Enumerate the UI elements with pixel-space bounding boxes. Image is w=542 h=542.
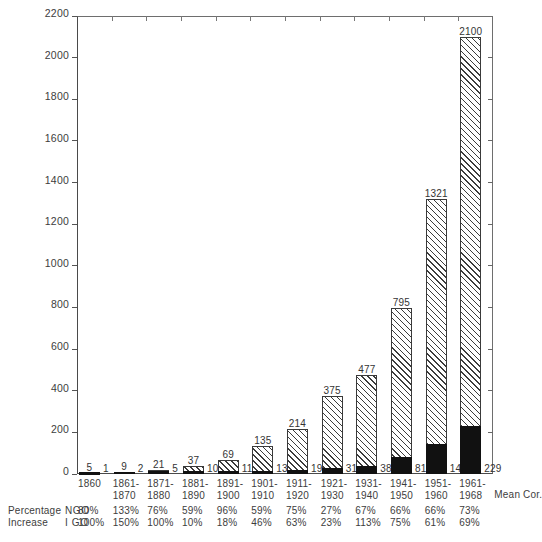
x-axis-label-line-1: 1931- xyxy=(355,478,382,490)
footer-ngo-percent-cell: 80% xyxy=(78,505,99,517)
footer-igo-percent-cell: 63% xyxy=(286,517,307,529)
y-tick-mark-right xyxy=(488,265,493,266)
x-axis-label-line-2: 1950 xyxy=(390,490,417,502)
footer-igo-percent-cell: 10% xyxy=(182,517,203,529)
y-tick-mark-right xyxy=(488,307,493,308)
y-tick-mark-right xyxy=(488,57,493,58)
x-axis-label: 1961-1968 xyxy=(459,478,486,501)
bar-igo xyxy=(426,444,447,474)
footer-ngo-percent-cell: 96% xyxy=(217,505,238,517)
x-axis-label-line-2: 1930 xyxy=(321,490,348,502)
y-tick-mark-right xyxy=(488,432,493,433)
bar-ngo: 37 xyxy=(183,466,204,474)
y-tick-label: 1800 xyxy=(45,91,69,102)
footer-row2-label: Increase xyxy=(8,517,48,529)
bar-ngo: 135 xyxy=(252,446,273,474)
bar-igo xyxy=(252,471,273,474)
y-tick-label: 2200 xyxy=(45,8,69,19)
x-axis-label: 1871-1880 xyxy=(147,478,174,501)
x-axis-label-line-1: 1901- xyxy=(251,478,278,490)
y-tick-label: 1200 xyxy=(45,216,69,227)
y-tick-mark xyxy=(72,140,77,141)
bar-value-label-ngo: 135 xyxy=(254,435,271,446)
x-axis-label: 1881-1890 xyxy=(182,478,209,501)
x-axis-label: 1931-1940 xyxy=(355,478,382,501)
bar-igo xyxy=(356,466,377,474)
mean-cor-annotation: Mean Cor. xyxy=(494,489,542,501)
y-tick-mark xyxy=(72,307,77,308)
top-axis-tick xyxy=(146,16,147,21)
bar-ngo: 5 xyxy=(79,473,100,475)
bar-value-label-igo: 229 xyxy=(484,463,501,474)
y-tick-label: 1600 xyxy=(45,133,69,144)
footer-igo-percent-cell: 18% xyxy=(217,517,238,529)
x-axis-label-line-1: 1881- xyxy=(182,478,209,490)
bar-ngo: 375 xyxy=(322,396,343,474)
y-tick-mark xyxy=(72,390,77,391)
bar-igo xyxy=(391,457,412,474)
x-axis-label: 1901-1910 xyxy=(251,478,278,501)
bar-ngo: 1321 xyxy=(426,199,447,474)
x-axis-label: 1861-1870 xyxy=(113,478,140,501)
bar-value-label-igo: 1 xyxy=(103,463,109,474)
bar-igo xyxy=(460,426,481,474)
bar-value-label-ngo: 37 xyxy=(188,455,200,466)
bar-ngo: 69 xyxy=(218,460,239,474)
footer-igo-percent-cell: 23% xyxy=(321,517,342,529)
y-tick-mark-right xyxy=(488,99,493,100)
bar-value-label-ngo: 375 xyxy=(324,385,341,396)
bar-value-label-ngo: 5 xyxy=(87,462,93,473)
y-tick-mark-right xyxy=(488,140,493,141)
x-axis-label-line-2: 1940 xyxy=(355,490,382,502)
x-axis-label-line-2: 1968 xyxy=(459,490,486,502)
top-axis-tick xyxy=(112,16,113,21)
top-axis-tick xyxy=(389,16,390,21)
bar-value-label-ngo: 477 xyxy=(358,364,375,375)
x-axis-label-line-2: 1920 xyxy=(286,490,312,502)
x-axis-label: 1951-1960 xyxy=(425,478,452,501)
bar-igo xyxy=(322,468,343,474)
x-axis-label: 1891-1900 xyxy=(217,478,244,501)
footer-igo-percent-cell: 69% xyxy=(459,517,480,529)
footer-ngo-percent-cell: 76% xyxy=(147,505,168,517)
y-tick-mark xyxy=(72,224,77,225)
y-tick-mark xyxy=(72,349,77,350)
footer-igo-percent-cell: 61% xyxy=(425,517,446,529)
footer-igo-percent-cell: 150% xyxy=(113,517,139,529)
footer-ngo-percent-cell: 66% xyxy=(390,505,411,517)
x-axis-label-line-1: 1921- xyxy=(321,478,348,490)
bar-igo xyxy=(148,471,169,474)
x-axis-label-line-2: 1900 xyxy=(217,490,244,502)
bar-igo xyxy=(218,471,239,474)
x-axis-label-line-1: 1891- xyxy=(217,478,244,490)
footer-ngo-percent-cell: 75% xyxy=(286,505,307,517)
y-tick-label: 600 xyxy=(51,341,69,352)
bar-value-label-ngo: 1321 xyxy=(425,188,448,199)
y-tick-mark-right xyxy=(488,349,493,350)
bar-value-label-ngo: 9 xyxy=(121,461,127,472)
y-tick-mark xyxy=(72,474,77,475)
y-tick-label: 200 xyxy=(51,424,69,435)
bar-ngo: 9 xyxy=(114,472,135,474)
footer-ngo-percent-cell: 133% xyxy=(113,505,139,517)
x-axis-label-line-2: 1910 xyxy=(251,490,278,502)
bar-value-label-igo: 5 xyxy=(172,463,178,474)
bar-value-label-ngo: 214 xyxy=(289,418,306,429)
x-axis-label: 1911-1920 xyxy=(286,478,312,501)
y-tick-label: 2000 xyxy=(45,50,69,61)
footer-ngo-percent-cell: 67% xyxy=(355,505,376,517)
footer-ngo-percent-cell: 66% xyxy=(425,505,446,517)
y-tick-mark xyxy=(72,265,77,266)
x-axis-label-line-2: 1880 xyxy=(147,490,174,502)
top-axis-tick xyxy=(354,16,355,21)
top-axis-tick xyxy=(424,16,425,21)
x-axis-label-line-1: 1860 xyxy=(78,478,101,490)
x-axis-label-line-1: 1941- xyxy=(390,478,417,490)
bar-ngo: 795 xyxy=(391,308,412,474)
x-axis-label-line-2: 1960 xyxy=(425,490,452,502)
bar-ngo: 477 xyxy=(356,375,377,474)
y-tick-mark xyxy=(72,57,77,58)
bar-igo xyxy=(287,470,308,474)
footer-ngo-percent-cell: 27% xyxy=(321,505,342,517)
